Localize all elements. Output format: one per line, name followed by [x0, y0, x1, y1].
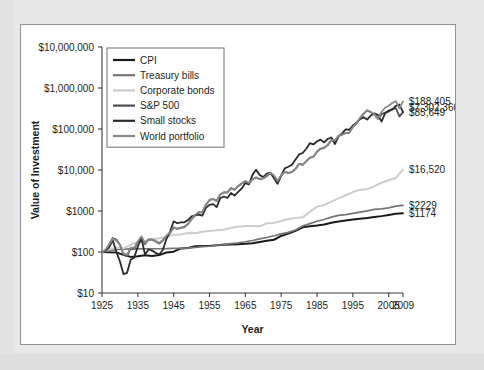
series-end-label-treasury-bills: $2229 [409, 200, 437, 211]
x-tick-label: 2009 [392, 300, 415, 311]
y-tick-label: $100 [72, 247, 95, 258]
y-axis-title: Value of Investment [29, 120, 41, 219]
end-label-group: $1174$2229$16,520$85,649$7,302,360$188,4… [409, 96, 455, 219]
page-tint-left [0, 0, 14, 370]
x-tick-label: 1975 [270, 300, 293, 311]
x-tick-label: 1925 [91, 300, 114, 311]
chart-legend: CPITreasury billsCorporate bondsS&P 500S… [107, 48, 224, 147]
y-axis-tick-group: $10,000,000$1,000,000$100,000$10,000$100… [38, 42, 102, 299]
y-tick-label: $10,000 [58, 165, 95, 176]
page-tint-bottom [0, 354, 484, 370]
y-tick-label: $100,000 [52, 124, 94, 135]
series-end-label-world-portfolio: $188,405 [409, 96, 451, 107]
x-tick-label: 1965 [234, 300, 257, 311]
x-tick-label: 1945 [163, 300, 186, 311]
series-end-label-corporate-bonds: $16,520 [409, 164, 446, 175]
series-line-treasury-bills [102, 205, 403, 252]
legend-label-world-portfolio: World portfolio [140, 131, 205, 142]
figure-panel: $10,000,000$1,000,000$100,000$10,000$100… [20, 24, 456, 345]
y-tick-label: $1,000,000 [44, 83, 94, 94]
x-tick-label: 1935 [127, 300, 150, 311]
legend-label-treasury-bills: Treasury bills [140, 70, 199, 81]
y-tick-label: $10 [77, 288, 94, 299]
y-tick-label: $1000 [66, 206, 94, 217]
x-tick-label: 1995 [342, 300, 365, 311]
y-tick-label: $10,000,000 [38, 42, 94, 53]
x-tick-label: 1955 [198, 300, 221, 311]
legend-label-small-stocks: Small stocks [140, 115, 196, 126]
x-axis-tick-group: 1925193519451955196519751985199520052009 [91, 293, 415, 311]
legend-label-corporate-bonds: Corporate bonds [140, 85, 215, 96]
legend-label-s-p-500: S&P 500 [140, 100, 180, 111]
x-tick-label: 1985 [306, 300, 329, 311]
x-axis-title: Year [241, 323, 263, 335]
legend-label-cpi: CPI [140, 55, 157, 66]
page-background: $10,000,000$1,000,000$100,000$10,000$100… [0, 0, 484, 370]
investment-growth-line-chart: $10,000,000$1,000,000$100,000$10,000$100… [21, 25, 455, 344]
